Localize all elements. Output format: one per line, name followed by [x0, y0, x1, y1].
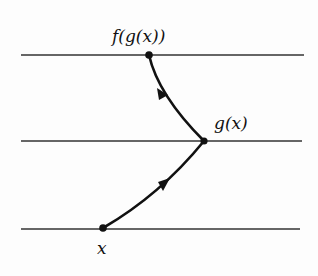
label-g: g(x): [214, 113, 248, 133]
arrow-x-to-g: [103, 141, 204, 228]
point-fg: [145, 51, 153, 59]
label-x: x: [97, 238, 107, 258]
composition-diagram: f(g(x)) g(x) x: [0, 0, 318, 276]
point-g: [200, 137, 207, 144]
arrowhead-lower-icon: [158, 178, 170, 191]
arrow-g-to-fg: [149, 55, 204, 141]
point-x: [99, 224, 107, 232]
label-fg: f(g(x)): [112, 26, 165, 46]
